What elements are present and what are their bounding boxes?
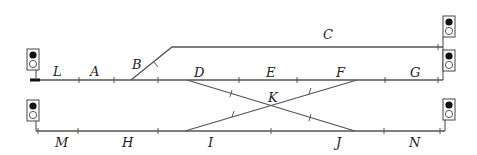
signal-lamp-red xyxy=(29,102,36,109)
section-label-H: H xyxy=(121,135,134,150)
section-label-D: D xyxy=(193,65,205,80)
signal-lamp-off xyxy=(29,111,36,118)
signal-lower-right xyxy=(443,99,455,131)
signal-lamp-red xyxy=(29,51,36,58)
signal-lamp-red xyxy=(445,18,452,25)
section-label-K: K xyxy=(267,90,279,105)
signal-lamp-off xyxy=(29,60,36,67)
siding-track xyxy=(131,44,443,80)
section-label-F: F xyxy=(335,65,346,80)
signal-siding-right xyxy=(443,16,455,47)
section-label-M: M xyxy=(54,135,69,150)
signal-lamp-off xyxy=(445,27,452,34)
signal-upper-left xyxy=(27,49,39,80)
signal-lamp-off xyxy=(445,61,452,68)
section-label-C: C xyxy=(323,27,333,42)
signal-upper-right xyxy=(443,47,455,80)
railway-track-diagram: L A B C D E F G K M H I J N xyxy=(0,0,477,155)
lower-main-track xyxy=(36,128,445,134)
section-label-G: G xyxy=(410,65,420,80)
crossover-track xyxy=(185,80,357,131)
signal-lamp-red xyxy=(445,101,452,108)
section-label-N: N xyxy=(408,135,421,150)
section-label-B: B xyxy=(131,57,142,72)
section-label-I: I xyxy=(207,135,214,150)
section-label-E: E xyxy=(265,65,276,80)
signal-lamp-off xyxy=(445,110,452,117)
section-label-L: L xyxy=(52,64,62,79)
section-label-A: A xyxy=(89,64,99,79)
section-label-J: J xyxy=(333,135,342,150)
signal-lower-left xyxy=(27,100,39,131)
signal-lamp-red xyxy=(445,52,452,59)
